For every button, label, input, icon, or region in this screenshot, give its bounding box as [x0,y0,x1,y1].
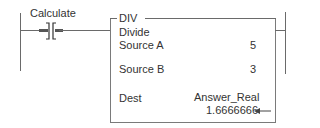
examine-if-closed-contact-icon[interactable] [45,22,59,40]
source-b-value[interactable]: 3 [250,63,256,75]
dest-label: Dest [119,92,142,104]
instruction-description: Divide [119,26,150,38]
box-top-border-right [145,18,276,19]
rung-wire-output [275,30,285,31]
source-a-label: Source A [119,39,164,51]
source-b-label: Source B [119,63,164,75]
right-power-rail [285,12,286,74]
source-a-value[interactable]: 5 [250,39,256,51]
dest-tag[interactable]: Answer_Real [194,91,259,103]
box-top-border-left [110,18,117,19]
left-power-rail [20,13,21,71]
rung-wire-middle [59,30,110,31]
contact-tag-label: Calculate [30,7,76,19]
result-arrow-icon [254,107,272,115]
instruction-mnemonic: DIV [119,12,137,24]
dest-value: 1.6666666 [206,104,258,116]
